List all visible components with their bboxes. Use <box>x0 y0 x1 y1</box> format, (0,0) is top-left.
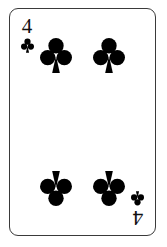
rank-label-bottom-right: 4 <box>127 207 149 228</box>
pip-club-bottom-left <box>40 171 72 207</box>
rank-label-top-left: 4 <box>16 16 38 37</box>
pip-club-top-left <box>40 37 72 73</box>
pip-club-bottom-right <box>93 171 125 207</box>
club-icon-top-left <box>16 38 38 54</box>
card-scene: 4 <box>0 0 167 247</box>
corner-index-top-left: 4 <box>16 16 38 54</box>
club-icon-bottom-right <box>127 190 149 206</box>
pip-club-top-right <box>93 37 125 73</box>
playing-card-four-of-clubs[interactable]: 4 <box>9 8 156 236</box>
corner-index-bottom-right: 4 <box>127 190 149 228</box>
